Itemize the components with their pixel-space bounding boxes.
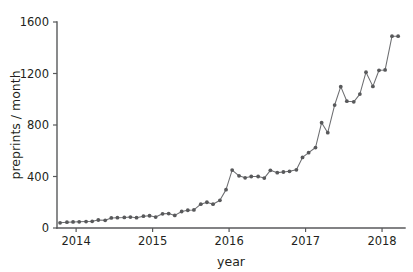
data-point-marker [390, 34, 394, 38]
data-point-marker [161, 212, 165, 216]
data-point-marker [262, 176, 266, 180]
data-point-marker [218, 198, 222, 202]
data-point-marker [167, 212, 171, 216]
data-point-marker [90, 219, 94, 223]
data-point-marker [371, 84, 375, 88]
data-point-marker [148, 214, 152, 218]
data-point-marker [256, 175, 260, 179]
data-point-marker [116, 216, 120, 220]
data-point-marker [358, 92, 362, 96]
y-tick-group: 040080012001600 [20, 15, 57, 235]
data-point-marker [294, 168, 298, 172]
data-point-marker [192, 208, 196, 212]
data-point-marker [129, 215, 133, 219]
data-point-marker [237, 174, 241, 178]
x-tick-group: 20142015201620172018 [61, 228, 396, 248]
data-point-marker [211, 202, 215, 206]
data-point-marker [307, 151, 311, 155]
x-tick-label: 2018 [367, 234, 396, 248]
data-point-marker [199, 202, 203, 206]
data-point-marker [281, 170, 285, 174]
chart-figure: 040080012001600 20142015201620172018 pre… [0, 0, 413, 272]
data-point-marker [288, 169, 292, 173]
data-point-marker [364, 70, 368, 74]
data-point-marker [301, 156, 305, 160]
data-point-marker [268, 168, 272, 172]
data-point-marker [96, 218, 100, 222]
data-point-marker [249, 175, 253, 179]
data-point-marker [230, 168, 234, 172]
data-point-marker [154, 215, 158, 219]
y-axis-title: preprints / month [8, 70, 23, 179]
data-point-marker [58, 221, 62, 225]
data-point-marker [122, 216, 126, 220]
x-tick-label: 2016 [214, 234, 243, 248]
data-point-marker [383, 68, 387, 72]
preprints-per-month-line-chart: 040080012001600 20142015201620172018 pre… [0, 0, 413, 272]
data-point-marker [103, 218, 107, 222]
data-point-marker [320, 121, 324, 125]
y-axis: 040080012001600 [20, 15, 57, 235]
data-point-marker [352, 100, 356, 104]
data-series-group [58, 34, 400, 224]
x-axis-title: year [217, 254, 246, 269]
x-tick-label: 2014 [61, 234, 90, 248]
data-point-marker [65, 220, 69, 224]
data-point-marker [314, 146, 318, 150]
data-point-marker [135, 216, 139, 220]
data-point-marker [205, 200, 209, 204]
data-point-marker [142, 214, 146, 218]
y-tick-label: 400 [27, 170, 49, 184]
x-tick-label: 2017 [291, 234, 320, 248]
data-point-marker [71, 220, 75, 224]
y-tick-label: 0 [42, 221, 49, 235]
data-point-marker [77, 220, 81, 224]
data-point-marker [326, 131, 330, 135]
data-point-marker [339, 85, 343, 89]
x-axis: 20142015201620172018 [57, 228, 405, 248]
y-tick-label: 1600 [20, 15, 49, 29]
data-point-marker [180, 210, 184, 214]
series-line [60, 36, 398, 223]
data-point-marker [396, 34, 400, 38]
data-point-marker [275, 171, 279, 175]
y-tick-label: 1200 [20, 67, 49, 81]
data-point-marker [186, 208, 190, 212]
data-point-marker [377, 68, 381, 72]
data-point-marker [173, 213, 177, 217]
data-point-marker [109, 216, 113, 220]
y-tick-label: 800 [27, 118, 49, 132]
data-point-marker [84, 220, 88, 224]
data-point-marker [243, 176, 247, 180]
x-tick-label: 2015 [138, 234, 167, 248]
data-point-marker [224, 188, 228, 192]
data-point-marker [333, 103, 337, 107]
data-point-marker [345, 99, 349, 103]
